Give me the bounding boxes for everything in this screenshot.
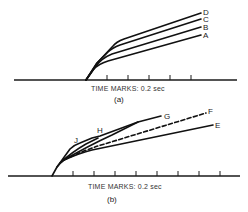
panel-a: D C B A TIME MARKS: 0.2 sec (a) <box>14 8 237 104</box>
curve-label-e: E <box>215 121 220 130</box>
panel-b: G F E J H TIME MARKS: 0.2 sec (b) <box>8 107 240 204</box>
point-label-h: H <box>97 126 103 135</box>
curve-d <box>86 13 201 80</box>
point-label-j: J <box>74 136 78 145</box>
curve-label-f: F <box>208 107 213 116</box>
curve-rise-b <box>52 160 64 176</box>
figure: D C B A TIME MARKS: 0.2 sec (a) G <box>0 0 248 212</box>
caption-a: TIME MARKS: 0.2 sec <box>91 85 165 92</box>
curve-e <box>64 125 213 160</box>
time-ticks-b <box>73 171 220 176</box>
sublabel-a: (a) <box>114 95 124 104</box>
sublabel-b: (b) <box>107 195 117 204</box>
curve-b <box>86 27 201 80</box>
curve-g <box>57 116 161 167</box>
curve-label-a: A <box>203 31 209 40</box>
curve-label-g: G <box>164 112 170 121</box>
curve-c <box>86 19 201 80</box>
caption-b: TIME MARKS: 0.2 sec <box>88 183 162 190</box>
time-ticks-a <box>107 75 191 80</box>
curve-f <box>64 113 206 160</box>
